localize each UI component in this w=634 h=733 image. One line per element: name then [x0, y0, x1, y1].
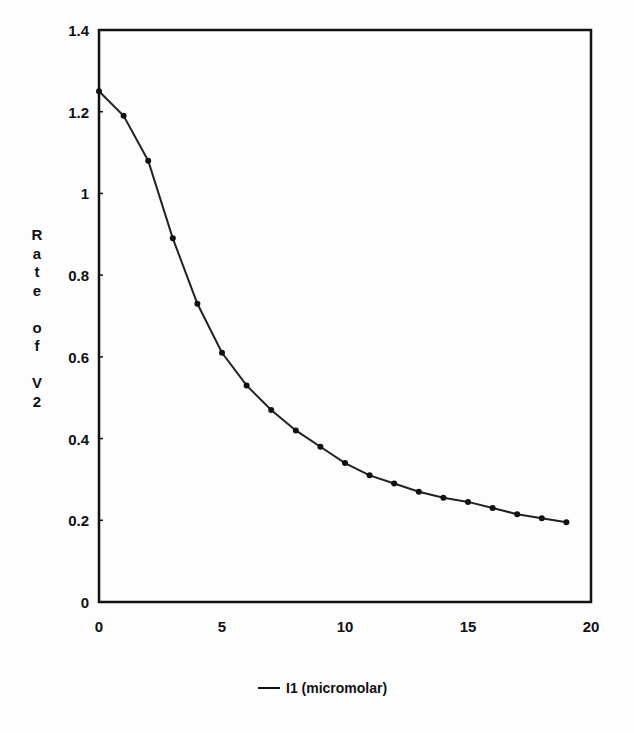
y-tick-label: 0.4	[68, 431, 90, 448]
data-point	[96, 88, 102, 94]
y-axis-label-letter: f	[35, 337, 41, 354]
data-point	[391, 481, 397, 487]
line-chart: 00.20.40.60.811.21.405101520RateofV2	[0, 0, 634, 733]
data-point	[268, 407, 274, 413]
y-axis-label-letter: a	[33, 245, 42, 262]
data-point	[145, 158, 151, 164]
y-tick-label: 0.2	[68, 512, 89, 529]
y-axis-label-letter: o	[32, 319, 41, 336]
y-axis-label-letter: 2	[33, 393, 41, 410]
y-tick-label: 1	[81, 185, 89, 202]
data-point	[342, 460, 348, 466]
data-point	[490, 505, 496, 511]
y-axis-label-letter: t	[35, 263, 40, 280]
data-point	[563, 519, 569, 525]
x-tick-label: 10	[337, 618, 354, 635]
data-point	[219, 350, 225, 356]
legend-label: I1 (micromolar)	[286, 680, 387, 696]
data-line	[99, 91, 566, 522]
data-point	[317, 444, 323, 450]
y-axis-label-letter: V	[32, 374, 42, 391]
data-point	[514, 511, 520, 517]
data-point	[121, 113, 127, 119]
y-axis-label-letter: e	[33, 282, 41, 299]
legend-line-icon	[258, 687, 280, 689]
data-point	[244, 382, 250, 388]
data-point	[367, 472, 373, 478]
y-tick-label: 1.2	[68, 104, 89, 121]
x-tick-label: 0	[95, 618, 103, 635]
data-point	[194, 301, 200, 307]
y-tick-label: 0	[81, 594, 89, 611]
y-tick-label: 1.4	[68, 22, 90, 39]
x-tick-label: 5	[218, 618, 226, 635]
data-point	[440, 495, 446, 501]
legend: I1 (micromolar)	[258, 680, 387, 696]
data-point	[293, 427, 299, 433]
data-point	[465, 499, 471, 505]
y-tick-label: 0.8	[68, 267, 89, 284]
x-tick-label: 15	[460, 618, 477, 635]
chart-figure: 00.20.40.60.811.21.405101520RateofV2 I1 …	[0, 0, 634, 733]
y-tick-label: 0.6	[68, 349, 89, 366]
data-point	[539, 515, 545, 521]
x-tick-label: 20	[583, 618, 600, 635]
data-point	[416, 489, 422, 495]
y-axis-label-letter: R	[32, 226, 43, 243]
data-point	[170, 235, 176, 241]
